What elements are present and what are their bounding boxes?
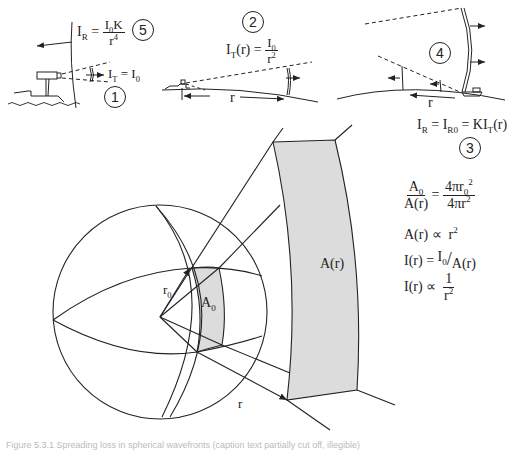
formula-ir-equals-kit: IR = IR0 = KIT(r) — [417, 118, 507, 132]
panel-2-propagation — [162, 62, 318, 102]
large-area-patch — [273, 140, 359, 400]
radius-label-r0: r0 — [163, 283, 172, 296]
step-badge-5: 5 — [132, 19, 154, 41]
distance-label-r-panel4: r — [428, 96, 433, 110]
equation-intensity-proportional: I(r) ∝ 1 r2 — [404, 272, 454, 303]
step-badge-4: 4 — [429, 42, 451, 64]
formula-it-of-r: IT(r) = I0 r2 — [226, 36, 278, 65]
step-badge-3: 3 — [459, 137, 481, 159]
outer-radius-label-r: r — [238, 397, 242, 410]
distance-label-r-panel2: r — [230, 91, 235, 105]
small-area-label: A0 — [201, 296, 216, 310]
large-area-label: A(r) — [320, 257, 344, 271]
step-badge-1: 1 — [104, 86, 126, 108]
equation-area-ratio: A0 A(r) = 4πr02 4πr2 — [404, 180, 475, 211]
formula-ir-echo: IR = I0K r4 — [77, 18, 125, 47]
equation-intensity-over-area: I(r) = I0/A(r) — [404, 250, 476, 268]
panel-4-reflection — [337, 8, 505, 100]
sphere-diagram — [53, 125, 395, 430]
diagram-canvas — [0, 0, 513, 450]
formula-it-equals-i0: IT = I0 — [108, 67, 140, 80]
step-badge-2: 2 — [242, 11, 264, 33]
figure-caption: Figure 5.3.1 Spreading loss in spherical… — [6, 440, 511, 450]
equation-area-proportional: A(r) ∝ r2 — [404, 228, 458, 242]
